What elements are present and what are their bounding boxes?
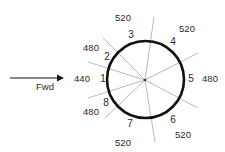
segment-number-2: 2 [104,51,110,62]
segment-number-4: 4 [170,36,176,47]
segment-value-4: 520 [179,23,195,34]
segment-number-6: 6 [170,114,176,125]
ray-5-6 [145,80,198,108]
ray-6-7 [145,80,155,142]
segment-value-5: 480 [202,73,218,84]
segment-value-1: 440 [74,73,90,84]
segment-number-1: 1 [100,73,106,84]
forward-arrow: Fwd [10,75,64,93]
segment-number-7: 7 [127,118,133,129]
center-point [144,79,147,82]
segment-value-7: 520 [115,137,131,148]
direction-label: Fwd [36,81,54,92]
segment-number-3: 3 [128,29,134,40]
ray-3-4 [145,17,154,80]
arrow-head-icon [57,75,64,82]
segment-value-8: 480 [83,106,99,117]
segment-diagram: Fwd 1 2 3 4 5 6 7 8 440 480 520 520 480 … [0,0,225,152]
segment-value-6: 520 [175,129,191,140]
segment-value-2: 480 [83,42,99,53]
segment-number-8: 8 [103,97,109,108]
segment-value-3: 520 [115,12,131,23]
segment-number-5: 5 [188,73,194,84]
ray-8-1 [88,80,145,98]
